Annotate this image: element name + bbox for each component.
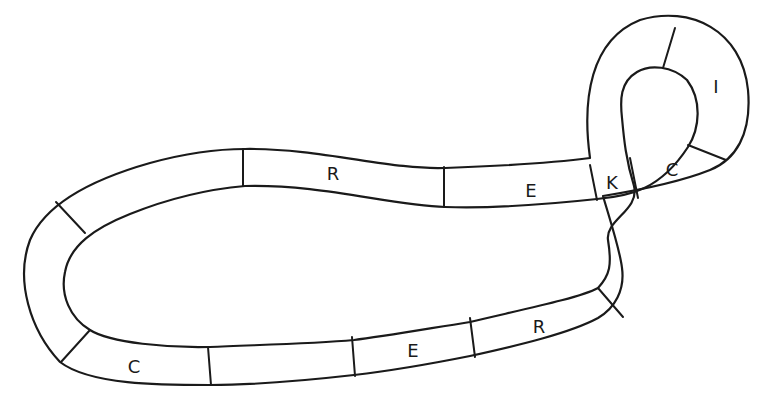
track-diagram [0,0,764,410]
divider [663,28,675,68]
cell-label-top-e: E [525,182,536,200]
divider [61,330,90,362]
cell-label-bottom-r: R [533,318,546,336]
cell-label-top-r: R [327,165,340,183]
cell-label-k: K [606,174,618,192]
divider [590,165,597,200]
divider [470,318,475,357]
track-inner-edge [64,67,698,347]
divider [56,202,85,233]
cell-label-bottom-e: E [407,342,418,360]
divider [208,347,211,385]
cell-label-loop-i: I [713,78,718,96]
cell-label-loop-c: C [666,161,679,179]
divider [688,145,726,160]
cell-label-bottom-c: C [128,358,141,376]
divider [352,337,355,376]
